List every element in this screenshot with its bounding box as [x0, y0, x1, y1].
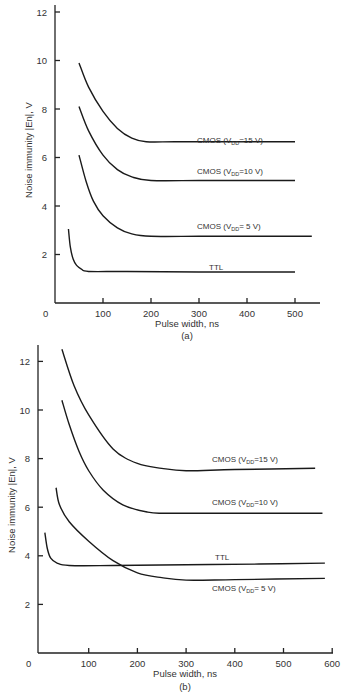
series-label: CMOS (VDD= 5 V): [212, 584, 276, 594]
y-tick-label: 4: [25, 550, 30, 561]
series-curve: [45, 533, 325, 566]
y-ticks-a: 24681012: [36, 7, 60, 261]
y-tick-label: 6: [25, 502, 30, 513]
chart-a: 24681012 100200300400500 0 Pulse width, …: [23, 5, 320, 341]
x-ticks-b: 100200300400500600: [81, 648, 340, 669]
y-axis-title-a: Noise immunity |En|, V: [23, 101, 34, 197]
series-label: CMOS (VDD=10 V): [197, 167, 263, 177]
series-label: CMOS (VDD=15 V): [212, 455, 278, 465]
x-tick-label: 500: [276, 658, 292, 669]
x-tick-label: 500: [287, 308, 303, 319]
x-tick-label: 400: [239, 308, 255, 319]
series-label: CMOS (VDD=10 V): [212, 498, 278, 508]
y-tick-label: 10: [36, 55, 47, 66]
y-tick-label: 4: [42, 201, 47, 212]
x-tick-label: 100: [95, 308, 111, 319]
x-tick-label: 200: [129, 658, 145, 669]
curves-a: CMOS (VDD=15 V)CMOS (VDD=10 V)CMOS (VDD=…: [68, 63, 311, 272]
y-tick-label: 10: [19, 405, 30, 416]
y-tick-label: 2: [42, 249, 47, 260]
series-curve: [68, 229, 295, 272]
y-axis-title-b: Noise immunity |En|, V: [6, 456, 17, 552]
y-ticks-b: 24681012: [19, 356, 43, 610]
series-curve: [62, 349, 315, 471]
y-tick-label: 8: [42, 104, 47, 115]
y-tick-label: 12: [36, 7, 47, 18]
x-tick-label: 600: [324, 658, 340, 669]
series-label: TTL: [209, 263, 224, 272]
x-axis-title-b: Pulse width, ns: [153, 668, 217, 679]
series-label: TTL: [215, 553, 230, 562]
caption-a: (a): [181, 330, 193, 341]
curves-b: CMOS (VDD=15 V)CMOS (VDD=10 V)CMOS (VDD=…: [45, 349, 325, 594]
y-tick-label: 6: [42, 152, 47, 163]
x-tick-label: 100: [81, 658, 97, 669]
figure: 24681012 100200300400500 0 Pulse width, …: [0, 0, 345, 700]
chart-b: 24681012 100200300400500600 0 Pulse widt…: [6, 345, 340, 692]
series-label: CMOS (VDD= 5 V): [197, 222, 261, 232]
origin-label-a: 0: [43, 308, 48, 319]
y-tick-label: 8: [25, 453, 30, 464]
series-curve: [79, 63, 295, 142]
x-tick-label: 400: [227, 658, 243, 669]
x-ticks-a: 100200300400500: [95, 298, 303, 319]
series-curve: [62, 400, 323, 513]
y-tick-label: 12: [19, 356, 30, 367]
y-tick-label: 2: [25, 599, 30, 610]
caption-b: (b): [179, 681, 191, 692]
x-axis-title-a: Pulse width, ns: [155, 318, 219, 329]
origin-label-b: 0: [26, 658, 31, 669]
series-label: CMOS (VDD=15 V): [197, 136, 263, 146]
